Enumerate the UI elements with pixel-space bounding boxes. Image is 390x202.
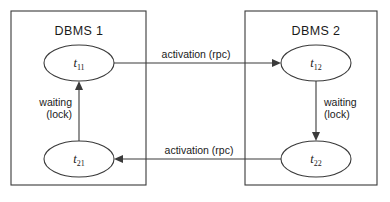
edge-label-waiting-right-line1: waiting — [323, 96, 357, 108]
edge-t11-to-t12-arrowhead — [272, 59, 281, 67]
edge-t12-to-t22-arrowhead — [312, 132, 320, 141]
edge-label-activation-top: activation (rpc) — [162, 48, 231, 60]
transaction-node-group: t11 t12 t21 t22 — [44, 45, 351, 177]
transaction-subscript-t22: 22 — [314, 159, 322, 168]
edge-label-waiting-left-line2: (lock) — [46, 108, 72, 120]
dbms-2-title: DBMS 2 — [292, 24, 341, 38]
edge-label-waiting-right-line2: (lock) — [324, 108, 350, 120]
edge-t21-to-t11-arrowhead — [75, 81, 83, 90]
deadlock-diagram: DBMS 1 DBMS 2 t11 t12 — [0, 0, 390, 202]
transaction-subscript-t12: 12 — [314, 63, 322, 72]
edge-label-activation-bottom: activation (rpc) — [165, 144, 234, 156]
edge-t22-to-t21-arrowhead — [114, 155, 123, 163]
edge-label-waiting-left-line1: waiting — [38, 96, 72, 108]
transaction-subscript-t11: 11 — [77, 63, 85, 72]
dbms-1-title: DBMS 1 — [55, 24, 104, 38]
diagram-canvas: DBMS 1 DBMS 2 t11 t12 — [0, 0, 390, 202]
transaction-subscript-t21: 21 — [77, 159, 85, 168]
